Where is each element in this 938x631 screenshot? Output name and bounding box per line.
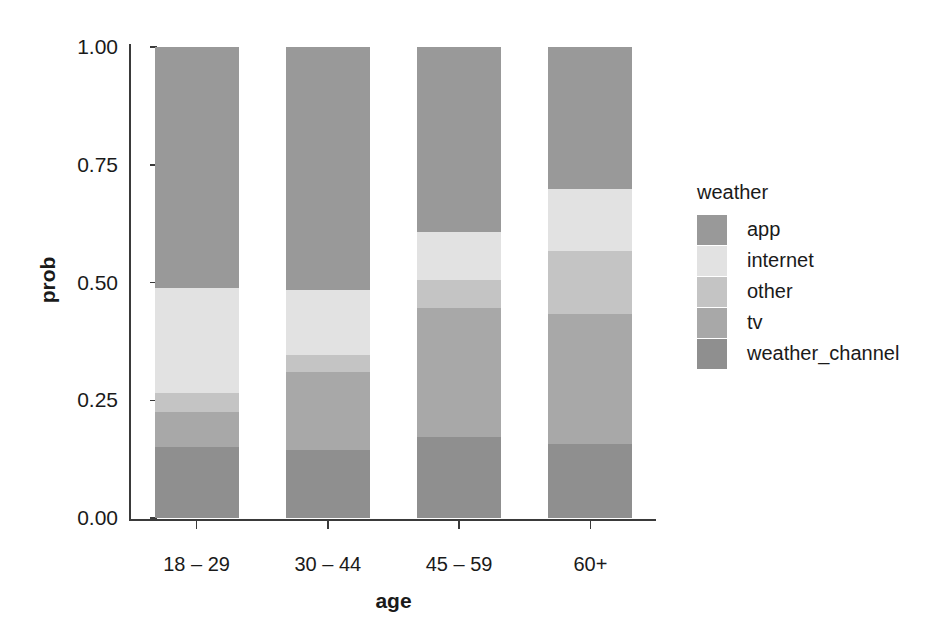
bar-segment[interactable] xyxy=(155,447,239,518)
legend-item[interactable]: app xyxy=(697,214,899,245)
legend-items: appinternetothertvweather_channel xyxy=(697,214,899,369)
bar-segment[interactable] xyxy=(155,288,239,393)
legend-item[interactable]: tv xyxy=(697,307,899,338)
y-tick-label: 1.00 xyxy=(46,36,118,57)
legend-item[interactable]: weather_channel xyxy=(697,338,899,369)
bar-stack[interactable] xyxy=(548,47,632,518)
bar-segment[interactable] xyxy=(286,355,370,372)
x-tick-label: 18 – 29 xyxy=(127,553,267,576)
legend-item[interactable]: internet xyxy=(697,245,899,276)
x-tick-label: 60+ xyxy=(520,553,660,576)
legend-swatch xyxy=(697,277,727,307)
bar-segment[interactable] xyxy=(548,47,632,189)
legend-label: other xyxy=(747,280,793,303)
x-tick-mark xyxy=(196,521,198,529)
bar-stack[interactable] xyxy=(417,47,501,518)
bar-segment[interactable] xyxy=(548,314,632,444)
legend-swatch xyxy=(697,246,727,276)
bar-segment[interactable] xyxy=(417,437,501,518)
y-tick-label: 0.50 xyxy=(46,272,118,293)
bar-segment[interactable] xyxy=(286,290,370,355)
bar-segment[interactable] xyxy=(155,47,239,288)
legend-label: weather_channel xyxy=(747,342,899,365)
legend-swatch xyxy=(697,339,727,369)
legend-label: tv xyxy=(747,311,763,334)
bar-segment[interactable] xyxy=(417,280,501,308)
x-tick-label: 45 – 59 xyxy=(389,553,529,576)
x-tick-mark xyxy=(458,521,460,529)
legend-swatch xyxy=(697,308,727,338)
bar-segment[interactable] xyxy=(286,47,370,290)
y-tick-label: 0.00 xyxy=(46,507,118,528)
plot-area xyxy=(131,47,656,518)
x-axis-line xyxy=(129,519,656,521)
y-tick-label: 0.25 xyxy=(46,389,118,410)
bar-segment[interactable] xyxy=(155,393,239,412)
x-tick-mark xyxy=(327,521,329,529)
bar-segment[interactable] xyxy=(548,251,632,314)
bar-segment[interactable] xyxy=(286,372,370,450)
y-axis-ticks: 1.000.750.500.250.00 xyxy=(28,0,118,631)
legend-swatch xyxy=(697,215,727,245)
stacked-bar-chart: prob 1.000.750.500.250.00 18 – 2930 – 44… xyxy=(0,0,938,631)
legend-label: internet xyxy=(747,249,814,272)
bar-segment[interactable] xyxy=(548,189,632,251)
bar-stack[interactable] xyxy=(155,47,239,518)
legend: weather appinternetothertvweather_channe… xyxy=(697,181,899,369)
x-axis-title: age xyxy=(131,589,656,613)
y-tick-label: 0.75 xyxy=(46,154,118,175)
legend-title: weather xyxy=(697,181,899,204)
legend-label: app xyxy=(747,218,780,241)
x-tick-label: 30 – 44 xyxy=(258,553,398,576)
bar-segment[interactable] xyxy=(155,412,239,447)
legend-item[interactable]: other xyxy=(697,276,899,307)
bar-segment[interactable] xyxy=(417,308,501,437)
bar-segment[interactable] xyxy=(417,232,501,280)
bar-stack[interactable] xyxy=(286,47,370,518)
bar-segment[interactable] xyxy=(286,450,370,518)
bar-segment[interactable] xyxy=(417,47,501,232)
x-tick-mark xyxy=(590,521,592,529)
bar-segment[interactable] xyxy=(548,444,632,518)
